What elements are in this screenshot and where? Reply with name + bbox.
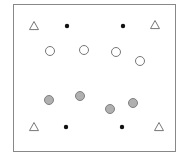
dot-marker <box>121 24 125 28</box>
triangle-marker <box>151 21 160 29</box>
open-circle-marker <box>46 47 55 56</box>
dot-marker <box>65 24 69 28</box>
gray-circle-marker <box>45 96 54 105</box>
dot-marker <box>120 125 124 129</box>
dot-marker <box>64 125 68 129</box>
gray-circle-marker <box>129 99 138 108</box>
open-circle-marker <box>136 57 145 66</box>
triangle-marker <box>155 123 164 131</box>
gray-circle-marker <box>76 92 85 101</box>
open-circle-marker <box>112 48 121 57</box>
triangle-marker <box>30 123 39 131</box>
diagram-canvas <box>0 0 186 158</box>
gray-circle-marker <box>106 105 115 114</box>
triangle-marker <box>30 22 39 30</box>
open-circle-marker <box>80 46 89 55</box>
